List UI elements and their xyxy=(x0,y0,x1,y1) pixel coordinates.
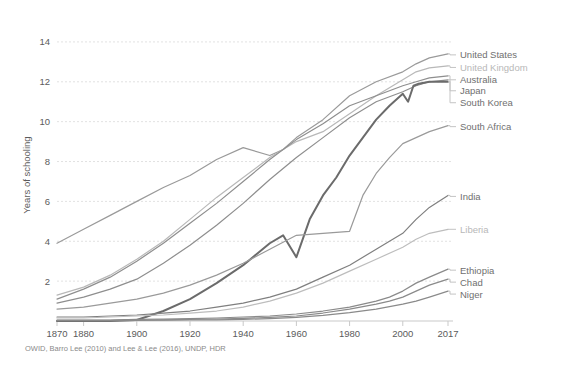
leader-line xyxy=(448,82,456,103)
series-line xyxy=(57,76,448,299)
x-tick-label: 1980 xyxy=(339,328,360,339)
series-line xyxy=(57,195,448,317)
gridlines xyxy=(57,42,453,281)
series-line xyxy=(57,80,448,303)
leader-line xyxy=(448,269,456,270)
x-tick-label: 1900 xyxy=(126,328,147,339)
y-tick-label: 12 xyxy=(39,76,50,87)
series-label-india: India xyxy=(460,191,481,202)
series-label-united-kingdom: United Kingdom xyxy=(460,62,528,73)
x-tick-label: 1920 xyxy=(179,328,200,339)
x-tick-label: 2000 xyxy=(392,328,413,339)
y-tick-label: 8 xyxy=(45,156,50,167)
y-tick-label: 14 xyxy=(39,36,50,47)
series-label-south-africa: South Africa xyxy=(460,121,512,132)
x-axis-ticks: 187018801900192019401960198020002017 xyxy=(46,321,458,339)
x-tick-label: 1940 xyxy=(233,328,254,339)
y-tick-label: 10 xyxy=(39,116,50,127)
leader-line xyxy=(448,66,456,68)
series-label-united-states: United States xyxy=(460,49,517,60)
x-tick-label: 2017 xyxy=(437,328,458,339)
label-leader-lines xyxy=(448,54,456,294)
chart-container: 2468101214 18701880190019201940196019802… xyxy=(0,0,578,370)
series-line xyxy=(57,66,448,295)
y-axis-title: Years of schooling xyxy=(21,136,32,213)
leader-line xyxy=(448,54,456,55)
series-label-liberia: Liberia xyxy=(460,224,489,235)
y-tick-label: 2 xyxy=(45,276,50,287)
x-tick-label: 1880 xyxy=(73,328,94,339)
series-label-ethiopia: Ethiopia xyxy=(460,265,495,276)
series-label-australia: Australia xyxy=(460,74,498,85)
series-label-japan: Japan xyxy=(460,85,486,96)
series-label-south-korea: South Korea xyxy=(460,97,514,108)
leader-line xyxy=(448,291,456,294)
series-line xyxy=(57,279,448,320)
leader-line xyxy=(448,126,456,127)
x-tick-label: 1870 xyxy=(46,328,67,339)
series-line xyxy=(57,269,448,320)
y-tick-label: 4 xyxy=(45,236,50,247)
leader-line xyxy=(448,195,456,196)
line-chart: 2468101214 18701880190019201940196019802… xyxy=(0,0,578,370)
y-axis-ticks: 2468101214 xyxy=(39,36,50,286)
series-label-niger: Niger xyxy=(460,289,483,300)
x-tick-label: 1960 xyxy=(286,328,307,339)
source-caption: OWID, Barro Lee (2010) and Lee & Lee (20… xyxy=(25,344,226,353)
series-label-chad: Chad xyxy=(460,277,483,288)
series-labels: United StatesUnited KingdomAustraliaJapa… xyxy=(460,49,528,299)
y-tick-label: 6 xyxy=(45,196,50,207)
leader-line xyxy=(448,76,456,80)
